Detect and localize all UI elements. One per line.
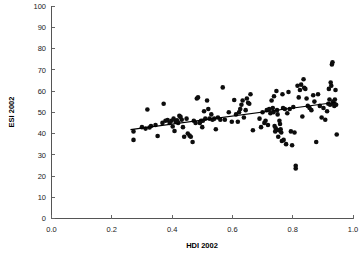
- data-point: [334, 132, 339, 137]
- data-point: [276, 134, 281, 139]
- data-point: [161, 101, 166, 106]
- data-point: [269, 98, 274, 103]
- data-point: [209, 112, 214, 117]
- y-tick-label: 90: [38, 23, 46, 32]
- y-tick-label: 50: [38, 108, 46, 117]
- data-point: [312, 99, 317, 104]
- data-point: [304, 96, 309, 101]
- data-point: [202, 109, 207, 114]
- data-point: [309, 108, 314, 113]
- data-point: [301, 77, 306, 82]
- data-point: [280, 92, 285, 97]
- y-tick-label: 100: [33, 2, 46, 11]
- data-point: [131, 138, 136, 143]
- y-tick-label: 40: [38, 129, 46, 138]
- data-point: [170, 124, 175, 129]
- data-point: [184, 116, 189, 121]
- data-point: [330, 60, 335, 65]
- data-point: [300, 114, 305, 119]
- data-point: [323, 117, 328, 122]
- x-axis-ticks: 0.00.20.40.60.81.0: [46, 215, 358, 234]
- data-point: [196, 95, 201, 100]
- data-point: [325, 109, 330, 114]
- data-point: [230, 120, 235, 125]
- y-tick-label: 70: [38, 66, 46, 75]
- data-point: [263, 118, 268, 123]
- data-point: [226, 110, 231, 115]
- data-point: [239, 103, 244, 108]
- data-point: [242, 115, 247, 120]
- data-point: [259, 125, 264, 130]
- data-point: [232, 98, 237, 103]
- data-point: [251, 128, 256, 133]
- x-tick-label: 0.6: [227, 225, 237, 234]
- data-point: [272, 94, 277, 99]
- x-tick-label: 0.4: [167, 225, 177, 234]
- data-point: [314, 140, 319, 145]
- data-point: [247, 101, 252, 106]
- data-point: [279, 130, 284, 135]
- data-point: [145, 107, 150, 112]
- x-tick-label: 0.2: [107, 225, 117, 234]
- scatter-chart: 0102030405060708090100 0.00.20.40.60.81.…: [0, 0, 364, 256]
- data-point: [245, 96, 250, 101]
- data-point: [220, 85, 225, 90]
- data-point: [321, 106, 326, 111]
- data-point: [188, 134, 193, 139]
- data-point: [275, 112, 280, 117]
- y-tick-label: 30: [38, 151, 46, 160]
- data-point: [205, 98, 210, 103]
- trend-line: [130, 102, 336, 129]
- data-point: [298, 88, 303, 93]
- x-tick-label: 0.0: [46, 225, 56, 234]
- data-point: [179, 117, 184, 122]
- data-point: [285, 111, 290, 116]
- y-axis-title: ESI 2002: [7, 97, 16, 128]
- data-point: [240, 98, 245, 103]
- data-point: [223, 117, 228, 122]
- data-point: [257, 116, 262, 121]
- data-point: [286, 90, 291, 95]
- x-tick-label: 1.0: [348, 225, 358, 234]
- data-point: [333, 97, 338, 102]
- data-point: [214, 127, 219, 132]
- data-point: [292, 130, 297, 135]
- data-point: [200, 125, 205, 130]
- data-point: [274, 89, 279, 94]
- data-point: [155, 134, 160, 139]
- data-point: [296, 95, 301, 100]
- data-point: [334, 103, 339, 108]
- data-point: [316, 92, 321, 97]
- y-tick-label: 60: [38, 87, 46, 96]
- data-point: [284, 142, 289, 147]
- y-tick-label: 80: [38, 44, 46, 53]
- x-axis-title: HDI 2002: [186, 241, 218, 250]
- data-point: [329, 83, 334, 88]
- data-point: [311, 93, 316, 98]
- data-point: [281, 138, 286, 143]
- data-point: [181, 125, 186, 130]
- y-tick-label: 20: [38, 172, 46, 181]
- data-point: [172, 129, 177, 134]
- data-point: [243, 108, 248, 113]
- data-point: [290, 143, 295, 148]
- data-point: [182, 134, 187, 139]
- data-point: [293, 166, 298, 171]
- data-point: [236, 120, 241, 125]
- y-tick-label: 0: [42, 214, 46, 223]
- data-point: [278, 122, 283, 127]
- data-point: [333, 88, 338, 93]
- chart-canvas: 0102030405060708090100 0.00.20.40.60.81.…: [0, 0, 364, 256]
- data-point: [190, 140, 195, 145]
- data-point: [248, 92, 253, 97]
- data-point: [238, 107, 243, 112]
- data-point: [206, 107, 211, 112]
- data-point: [271, 106, 276, 111]
- data-point: [266, 123, 271, 128]
- y-tick-label: 10: [38, 193, 46, 202]
- x-tick-label: 0.8: [287, 225, 297, 234]
- data-point: [303, 87, 308, 92]
